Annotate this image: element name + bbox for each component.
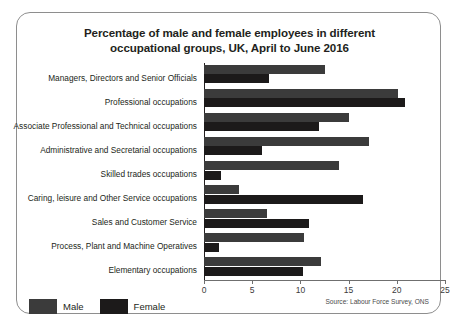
bar-male [204,161,339,170]
category-label: Caring, leisure and Other Service occupa… [28,193,197,203]
bar-male [204,89,398,98]
bar-female [204,146,262,155]
x-tick [204,280,205,284]
x-tick-label: 5 [250,285,255,295]
category-label: Professional occupations [105,97,197,107]
x-tick [397,280,398,284]
bar-female [204,122,319,131]
x-tick [252,280,253,284]
bar-male [204,257,321,266]
chart-source: Source: Labour Force Survey, ONS [325,298,429,305]
category-label: Sales and Customer Service [92,217,197,227]
bar-male [204,209,267,218]
bar-male [204,233,304,242]
bar-female [204,267,303,276]
x-tick-label: 0 [202,285,207,295]
bar-male [204,137,369,146]
x-tick-label: 25 [440,285,449,295]
bar-male [204,113,349,122]
legend-swatch-female [100,299,128,314]
category-label: Administrative and Secretarial occupatio… [40,145,197,155]
legend-label-male: Male [63,301,84,312]
chart-title: Percentage of male and female employees … [47,25,412,55]
chart-title-line-2: occupational groups, UK, April to June 2… [47,40,412,55]
bar-female [204,195,363,204]
x-axis-line [204,280,446,281]
x-tick-label: 15 [344,285,353,295]
chart-card: Percentage of male and female employees … [16,12,441,314]
bar-male [204,185,239,194]
bar-female [204,74,269,83]
x-tick [349,280,350,284]
chart-title-line-1: Percentage of male and female employees … [47,25,412,40]
bar-female [204,219,309,228]
legend-label-female: Female [134,301,166,312]
chart-legend: Male Female [29,299,175,314]
bar-female [204,98,405,107]
bar-female [204,243,219,252]
category-label: Associate Professional and Technical occ… [14,121,197,131]
x-tick [445,280,446,284]
x-tick-label: 20 [392,285,401,295]
legend-swatch-male [29,299,57,314]
bar-female [204,171,221,180]
category-label: Process, Plant and Machine Operatives [51,241,197,251]
bar-male [204,65,325,74]
category-label: Skilled trades occupations [101,169,197,179]
x-tick [300,280,301,284]
category-label: Elementary occupations [108,265,197,275]
category-label: Managers, Directors and Senior Officials [48,73,197,83]
x-tick-label: 10 [296,285,305,295]
